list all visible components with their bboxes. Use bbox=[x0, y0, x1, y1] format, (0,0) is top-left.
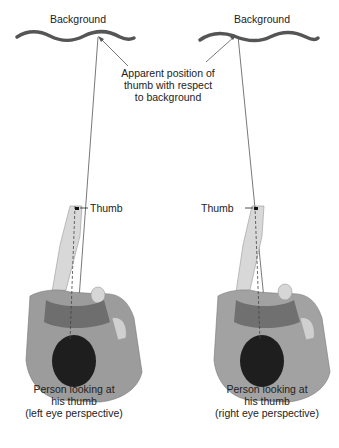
left-caption: Person looking at his thumb (left eye pe… bbox=[25, 383, 122, 419]
right-background-wave bbox=[200, 33, 318, 41]
right-caption-line-2: his thumb bbox=[215, 395, 319, 407]
left-person-figure bbox=[26, 206, 142, 402]
right-annotation-arrow bbox=[206, 37, 234, 62]
annotation-line-2: thumb with respect bbox=[121, 79, 214, 91]
right-person-figure bbox=[214, 206, 330, 402]
right-caption-line-3: (right eye perspective) bbox=[215, 407, 319, 419]
right-caption: Person looking at his thumb (right eye p… bbox=[215, 383, 319, 419]
left-background-wave bbox=[17, 32, 134, 41]
right-caption-line-1: Person looking at bbox=[215, 383, 319, 395]
left-caption-line-3: (left eye perspective) bbox=[25, 407, 122, 419]
apparent-position-annotation: Apparent position of thumb with respect … bbox=[121, 67, 214, 103]
right-thumb-label: Thumb bbox=[201, 202, 234, 214]
left-background-label: Background bbox=[50, 13, 106, 25]
right-background-label: Background bbox=[234, 13, 290, 25]
annotation-line-1: Apparent position of bbox=[121, 67, 214, 79]
left-caption-line-1: Person looking at bbox=[25, 383, 122, 395]
left-annotation-arrow bbox=[100, 38, 128, 66]
left-thumb-label: Thumb bbox=[90, 202, 123, 214]
annotation-line-3: to background bbox=[121, 91, 214, 103]
left-caption-line-2: his thumb bbox=[25, 395, 122, 407]
